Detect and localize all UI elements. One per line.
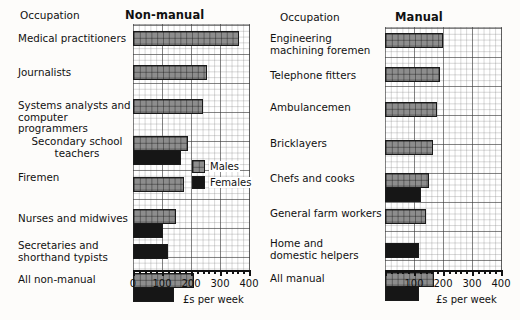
x-axis-tick [139, 270, 141, 274]
x-axis-tick [220, 270, 222, 276]
x-axis-caption-left: £s per week [183, 294, 244, 305]
x-axis-tick-labels-left: 0100200300400 [133, 278, 250, 292]
x-axis-tick [449, 270, 451, 274]
x-axis-tick [455, 270, 457, 274]
legend-swatch-females [192, 176, 205, 189]
bar-females [385, 243, 419, 258]
bar-males [385, 209, 426, 224]
occupation-header-left: Occupation [20, 9, 80, 21]
x-axis-tick-label: 0 [130, 278, 136, 289]
bar-males [385, 67, 440, 82]
chart-title-manual: Manual [395, 10, 443, 24]
category-label: Telephone fitters [270, 70, 388, 82]
x-axis-tick [174, 270, 176, 274]
x-axis-tick [133, 270, 135, 276]
category-label: Medical practitioners [18, 33, 136, 45]
x-axis-tick [226, 270, 228, 274]
x-axis-tick [495, 270, 497, 274]
plot-area-manual [385, 27, 502, 271]
x-axis-tick [232, 270, 234, 274]
x-axis-tick [431, 270, 433, 274]
x-axis-tick-label: 200 [181, 278, 200, 289]
x-axis-tick-label: 400 [239, 278, 258, 289]
x-axis-tick [443, 270, 445, 276]
occupation-header-right: Occupation [280, 11, 340, 23]
category-label: All manual [270, 273, 388, 285]
x-axis-tick [208, 270, 210, 274]
x-axis-tick [478, 270, 480, 274]
bar-males [385, 173, 429, 188]
bar-males [385, 140, 433, 155]
bar-females [385, 187, 421, 202]
bar-males [133, 99, 203, 114]
x-axis-tick [191, 270, 193, 276]
bar-females [133, 244, 168, 259]
x-axis-tick [466, 270, 468, 274]
x-axis-tick [426, 270, 428, 274]
x-axis-tick [420, 270, 422, 274]
x-axis-tick-label: 300 [210, 278, 229, 289]
category-label: Chefs and cooks [270, 173, 388, 185]
category-label: Engineering machining foremen [270, 33, 388, 56]
x-axis-tick [402, 270, 404, 274]
bar-males [133, 209, 176, 224]
bar-males [385, 102, 437, 117]
category-label: Ambulancemen [270, 102, 388, 114]
x-axis-tick [203, 270, 205, 274]
x-axis-tick [249, 270, 251, 276]
chart-title-non-manual: Non-manual [125, 8, 204, 22]
x-axis-tick-label: 100 [404, 278, 423, 289]
bar-males [133, 136, 188, 151]
x-axis-tick [391, 270, 393, 274]
x-axis-tick [489, 270, 491, 274]
x-axis-tick [243, 270, 245, 274]
x-axis-tick [145, 270, 147, 274]
category-label: Firemen [18, 172, 136, 184]
x-axis-tick-label: 400 [491, 278, 510, 289]
legend-swatch-males [192, 160, 205, 173]
x-axis-tick [484, 270, 486, 274]
x-axis-tick [179, 270, 181, 274]
x-axis-tick [156, 270, 158, 274]
category-label: General farm workers [270, 208, 388, 220]
x-axis-ticks-right [385, 270, 502, 276]
x-axis-tick-label: 200 [433, 278, 452, 289]
x-axis-tick [408, 270, 410, 274]
plot-area-non-manual [133, 24, 250, 271]
x-axis-tick-label: 300 [462, 278, 481, 289]
bar-males [133, 177, 184, 192]
category-label: Nurses and midwives [18, 213, 136, 225]
x-axis-tick [501, 270, 503, 276]
x-axis-ticks-left [133, 270, 250, 276]
bar-females [133, 150, 181, 165]
x-axis-tick-label: 100 [152, 278, 171, 289]
x-axis-tick-labels-right: 100200300400 [385, 278, 502, 292]
chart-panel-manual: Occupation Manual Engineering machining … [260, 0, 520, 320]
x-axis-tick [168, 270, 170, 274]
category-label: Home and domestic helpers [270, 238, 388, 261]
x-axis-tick [414, 270, 416, 276]
legend-label-males: Males [209, 161, 240, 172]
category-label: Secondary school teachers [18, 136, 136, 159]
x-axis-tick [385, 270, 387, 276]
category-label: All non-manual [18, 274, 136, 286]
bar-males [133, 31, 239, 46]
x-axis-tick [460, 270, 462, 274]
x-axis-tick [162, 270, 164, 276]
x-axis-tick [185, 270, 187, 274]
x-axis-caption-right: £s per week [436, 294, 497, 305]
category-label: Bricklayers [270, 138, 388, 150]
x-axis-tick [197, 270, 199, 274]
x-axis-tick [397, 270, 399, 274]
bar-males [385, 33, 443, 48]
category-label: Journalists [18, 67, 136, 79]
chart-panel-non-manual: Occupation Non-manual Medical practition… [0, 0, 260, 320]
legend-label-females: Females [209, 177, 252, 188]
x-axis-tick [237, 270, 239, 274]
x-axis-tick [437, 270, 439, 274]
bar-females [133, 223, 163, 238]
x-axis-tick [150, 270, 152, 274]
x-axis-tick [214, 270, 216, 274]
x-axis-tick [472, 270, 474, 276]
bar-males [133, 65, 207, 80]
